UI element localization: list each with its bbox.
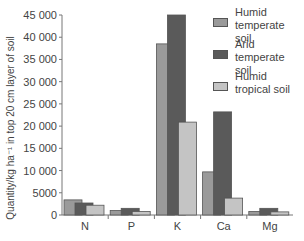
bar xyxy=(132,211,150,215)
x-category-label: Mg xyxy=(262,220,277,232)
x-axis: NPKCaMg xyxy=(62,215,293,232)
y-tick-label: 10 000 xyxy=(23,165,57,177)
legend: Humid temperate soil Arid temperate soil… xyxy=(213,6,304,102)
y-tick-label: 40 000 xyxy=(23,31,57,43)
x-category-label: N xyxy=(81,220,89,232)
bar xyxy=(86,205,104,215)
legend-item-arid-temperate: Arid temperate soil xyxy=(213,38,304,68)
x-category-label: P xyxy=(128,220,135,232)
y-tick-label: 15 000 xyxy=(23,142,57,154)
y-tick-label: 20 000 xyxy=(23,120,57,132)
legend-swatch-humid-tropical xyxy=(213,82,228,91)
y-tick-label: 30 000 xyxy=(23,76,57,88)
y-tick-label: 5000 xyxy=(33,187,57,199)
y-tick-label: 25 000 xyxy=(23,98,57,110)
y-axis: 0500010 00015 00020 00025 00030 00035 00… xyxy=(23,9,62,221)
x-category-label: K xyxy=(174,220,182,232)
bar xyxy=(178,122,196,215)
y-axis-label: Quantity/kg ha⁻¹ in top 20 cm layer of s… xyxy=(5,36,16,219)
y-tick-label: 35 000 xyxy=(23,53,57,65)
legend-item-humid-tropical: Humid tropical soil xyxy=(213,70,304,100)
legend-label: Humid tropical soil xyxy=(235,70,290,96)
legend-swatch-humid-temperate xyxy=(213,18,228,27)
bar xyxy=(271,212,289,215)
legend-item-humid-temperate: Humid temperate soil xyxy=(213,6,304,36)
bar xyxy=(225,198,243,215)
x-category-label: Ca xyxy=(217,220,232,232)
y-tick-label: 0 xyxy=(51,209,57,221)
y-tick-label: 45 000 xyxy=(23,9,57,21)
legend-swatch-arid-temperate xyxy=(213,50,228,59)
